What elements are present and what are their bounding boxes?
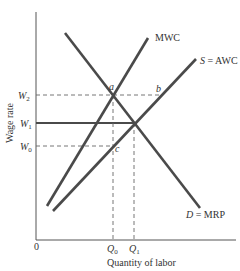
q0-tick-label: Q0 <box>107 243 118 256</box>
point-b-label: b <box>156 83 161 94</box>
point-a-label: a <box>109 81 114 92</box>
x-axis-title: Quantity of labor <box>107 257 177 268</box>
demand-mrp-curve <box>65 33 200 208</box>
supply-awc-curve <box>53 59 196 211</box>
supply-label: S = AWC <box>200 55 238 66</box>
w1-tick-label: W1 <box>20 118 32 131</box>
mwc-label: MWC <box>155 32 180 43</box>
supply-label-awc: = AWC <box>205 55 238 66</box>
q1-tick-label: Q1 <box>129 243 140 256</box>
demand-label-mrp: = MRP <box>193 209 225 220</box>
origin-label: 0 <box>34 241 39 252</box>
point-c-label: c <box>115 143 120 154</box>
w2-tick-label: W2 <box>18 90 30 103</box>
y-axis-title: Wage rate <box>4 102 15 143</box>
monopsony-labor-market-diagram: MWC S = AWC D = MRP a b c W2 W1 W0 Q0 Q1… <box>0 0 240 271</box>
diagram-canvas: MWC S = AWC D = MRP a b c W2 W1 W0 Q0 Q1… <box>0 0 240 271</box>
demand-label: D = MRP <box>185 209 225 220</box>
w0-tick-label: W0 <box>20 141 32 154</box>
